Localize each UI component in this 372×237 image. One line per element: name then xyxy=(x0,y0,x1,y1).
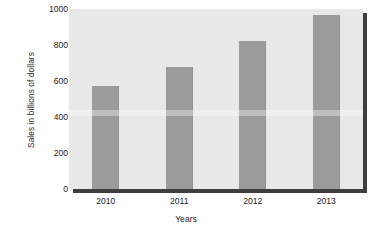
x-axis-label: Years xyxy=(0,214,372,224)
y-tick-label: 800 xyxy=(34,40,68,50)
bar xyxy=(239,41,266,189)
bar xyxy=(92,86,119,189)
bar xyxy=(313,15,340,189)
y-axis-ticks: 02004006008001000 xyxy=(34,0,68,237)
y-tick-label: 600 xyxy=(34,76,68,86)
y-tick-label: 1000 xyxy=(34,4,68,14)
plot-area xyxy=(69,9,363,189)
chart-figure: Sales in billions of dollars 02004006008… xyxy=(0,0,372,237)
y-tick-label: 0 xyxy=(34,184,68,194)
x-tick-label: 2010 xyxy=(81,196,131,206)
bars-container xyxy=(69,9,363,189)
x-tick-label: 2012 xyxy=(228,196,278,206)
bar xyxy=(166,67,193,189)
y-tick-label: 200 xyxy=(34,148,68,158)
x-tick-label: 2011 xyxy=(154,196,204,206)
y-tick-label: 400 xyxy=(34,112,68,122)
x-tick-label: 2013 xyxy=(301,196,351,206)
